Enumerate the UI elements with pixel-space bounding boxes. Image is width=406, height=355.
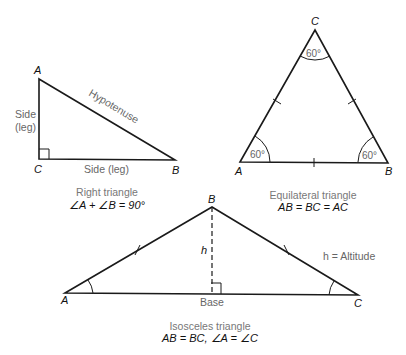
vertex-label-a: A <box>234 165 242 177</box>
angle-arc-c <box>329 281 334 295</box>
equilateral-triangle-formula: AB = BC = AC <box>277 201 348 213</box>
isosceles-triangle: B A C h Base h = Altitude Isosceles tria… <box>60 193 375 344</box>
equilateral-triangle-caption: Equilateral triangle <box>270 189 357 201</box>
side-leg-label-line1: Side <box>15 108 36 120</box>
isosceles-triangle-formula: AB = BC, ∠A = ∠C <box>161 332 258 344</box>
triangles-diagram: A C B Hypotenuse Side (leg) Side (leg) R… <box>0 0 406 355</box>
right-triangle: A C B Hypotenuse Side (leg) Side (leg) R… <box>15 64 179 211</box>
vertex-label-b: B <box>385 165 392 177</box>
vertex-label-b: B <box>172 164 179 176</box>
side-leg-label-line2: (leg) <box>15 121 36 133</box>
angle-label-b: 60° <box>362 150 377 161</box>
angle-arc-a <box>88 280 93 293</box>
altitude-label-h: h <box>201 244 207 256</box>
vertex-label-c: C <box>34 163 42 175</box>
vertex-label-b: B <box>208 193 215 205</box>
equilateral-triangle: 60° 60° 60° C A B Equilateral triangle A… <box>234 15 392 213</box>
right-triangle-caption: Right triangle <box>76 186 138 198</box>
angle-label-a: 60° <box>250 149 265 160</box>
right-triangle-shape <box>39 79 175 160</box>
isosceles-triangle-caption: Isosceles triangle <box>169 320 250 332</box>
vertex-label-a: A <box>33 64 41 76</box>
hypotenuse-label: Hypotenuse <box>87 86 141 125</box>
vertex-label-c: C <box>311 15 319 27</box>
vertex-label-c: C <box>354 297 362 309</box>
vertex-label-a: A <box>60 294 68 306</box>
bottom-side-leg-label: Side (leg) <box>84 163 129 175</box>
right-angle-marker <box>39 149 49 159</box>
angle-label-c: 60° <box>306 48 321 59</box>
base-label: Base <box>200 296 224 308</box>
right-triangle-formula: ∠A + ∠B = 90° <box>69 199 146 211</box>
altitude-legend: h = Altitude <box>323 250 375 262</box>
